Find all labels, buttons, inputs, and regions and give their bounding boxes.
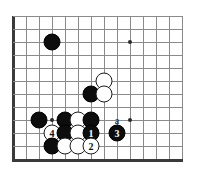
stone-black-move-3[interactable]: 3: [109, 125, 126, 142]
point-label-a: a: [115, 115, 119, 126]
stone-black[interactable]: [31, 112, 48, 129]
stone-move-number: 3: [115, 128, 120, 138]
stone-move-number: 2: [89, 141, 94, 151]
go-board-diagram: 4123a: [0, 0, 197, 182]
grid-line-vertical: [130, 16, 131, 162]
hoshi-star-point: [128, 40, 132, 44]
grid-line-horizontal: [13, 29, 183, 30]
stone-move-number: 1: [89, 128, 94, 138]
grid-line-horizontal: [13, 16, 183, 17]
grid-line-vertical: [182, 16, 183, 162]
hoshi-star-point: [128, 118, 132, 122]
grid-line-vertical: [169, 16, 170, 162]
stone-move-number: 4: [50, 128, 55, 138]
stone-white[interactable]: [96, 86, 113, 103]
stone-white-move-2[interactable]: 2: [83, 138, 100, 155]
hoshi-star-point: [50, 118, 54, 122]
grid-line-horizontal: [13, 42, 183, 43]
grid-line-vertical: [12, 16, 15, 162]
grid-line-vertical: [26, 16, 27, 162]
grid-line-horizontal: [13, 55, 183, 56]
grid-line-vertical: [156, 16, 157, 162]
grid-line-vertical: [143, 16, 144, 162]
grid-line-vertical: [39, 16, 40, 162]
grid-line-horizontal: [13, 159, 183, 162]
stone-black[interactable]: [44, 34, 61, 51]
grid-line-horizontal: [13, 107, 183, 108]
grid-line-horizontal: [13, 68, 183, 69]
